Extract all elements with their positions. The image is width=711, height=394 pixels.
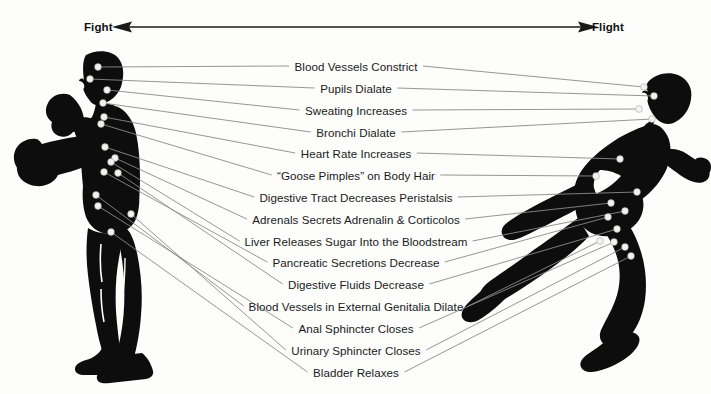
- anchor-dot: [108, 229, 115, 236]
- arrow-left-icon: [112, 22, 132, 33]
- anchor-dot: [101, 169, 108, 176]
- anchor-dot: [95, 64, 102, 71]
- anchor-dot: [651, 93, 658, 100]
- anchor-dot: [102, 144, 109, 151]
- anchor-dot: [634, 189, 641, 196]
- anchor-dot: [628, 253, 635, 260]
- leader-line: [118, 173, 283, 284]
- fight-or-flight-diagram: Fight Flight Blood Vessels ConstrictPupi…: [0, 0, 711, 394]
- leader-line: [401, 119, 652, 132]
- anchor-dot: [104, 87, 111, 94]
- anchor-dot: [597, 238, 604, 245]
- anchor-dot: [101, 114, 108, 121]
- leader-line: [423, 66, 644, 87]
- effect-label: Heart Rate Increases: [301, 147, 412, 160]
- anchor-dot: [115, 170, 122, 177]
- anchor-dot: [98, 121, 105, 128]
- effect-label: Adrenals Secrets Adrenalin & Corticolos: [252, 213, 460, 226]
- effect-label: Urinary Sphincter Closes: [291, 344, 420, 357]
- anchor-dot: [641, 84, 648, 91]
- anchor-dot: [593, 173, 600, 180]
- effect-label: Digestive Tract Decreases Peristalsis: [259, 191, 452, 204]
- effect-label: Pancreatic Secretions Decrease: [272, 256, 439, 269]
- anchor-dot: [108, 159, 115, 166]
- anchor-dot: [608, 200, 615, 207]
- anchor-dot: [95, 203, 102, 210]
- effect-label: Anal Sphincter Closes: [298, 322, 413, 335]
- anchor-dot: [87, 76, 94, 83]
- fight-flight-axis: [112, 22, 598, 33]
- leader-line: [440, 175, 596, 176]
- effect-label: Sweating Increases: [305, 104, 407, 117]
- anchor-dot: [614, 226, 621, 233]
- flight-axis-label: Flight: [592, 21, 624, 33]
- effect-label: Liver Releases Sugar Into the Bloodstrea…: [244, 235, 467, 248]
- effect-label: Pupils Dialate: [320, 82, 392, 95]
- anchor-dot: [622, 208, 629, 215]
- anchor-dot: [649, 116, 656, 123]
- effect-label: “Goose Pimples” on Body Hair: [277, 169, 435, 182]
- leader-line: [90, 79, 315, 88]
- anchor-dot: [617, 156, 624, 163]
- anchor-dot: [636, 106, 643, 113]
- anchor-dot: [611, 239, 618, 246]
- leader-line: [397, 88, 654, 96]
- leader-line: [413, 109, 639, 110]
- effect-label: Blood Vessels in External Genitalia Dila…: [249, 300, 464, 313]
- effect-label: Blood Vessels Constrict: [295, 60, 418, 73]
- leader-line: [107, 90, 299, 110]
- fight-axis-label: Fight: [84, 21, 113, 33]
- effect-label: Digestive Fluids Decrease: [288, 278, 424, 291]
- effect-label: Bladder Relaxes: [313, 366, 399, 379]
- anchor-dot: [100, 100, 107, 107]
- anchor-dot: [622, 244, 629, 251]
- anchor-dot: [128, 211, 135, 218]
- leader-line: [417, 153, 620, 159]
- effect-label: Bronchi Dialate: [316, 126, 395, 139]
- leader-line: [98, 66, 289, 67]
- anchor-dot: [93, 192, 100, 199]
- anchor-dot: [605, 214, 612, 221]
